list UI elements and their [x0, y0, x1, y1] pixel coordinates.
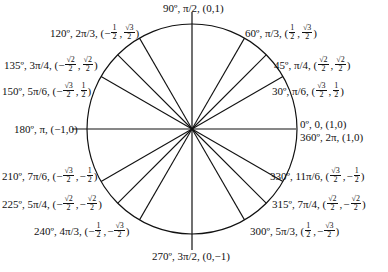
label-0: 0º, 0, (1,0) — [300, 118, 347, 130]
ray-60 — [192, 38, 245, 129]
y-coordinate: 12 — [333, 82, 339, 99]
ray-30 — [192, 77, 283, 130]
y-coordinate: √22 — [335, 56, 345, 73]
ray-135 — [118, 55, 192, 129]
ray-300 — [192, 129, 245, 220]
label-225: 225º, 5π/4, (−√22,−√22) — [2, 195, 102, 212]
y-coordinate: 12 — [87, 167, 93, 184]
x-coordinate: 12 — [111, 24, 117, 41]
ray-120 — [140, 38, 193, 129]
label-30: 30º, π/6, (√32,12) — [272, 82, 344, 99]
label-315: 315º, 7π/4, (√22,−√22) — [272, 195, 366, 212]
x-coordinate: √22 — [65, 56, 75, 73]
ray-45 — [192, 55, 266, 129]
x-coordinate: 12 — [95, 222, 101, 239]
x-coordinate: 12 — [305, 222, 311, 239]
label-360: 360º, 2π, (1,0) — [300, 131, 363, 143]
x-coordinate: √32 — [330, 167, 340, 184]
y-coordinate: √32 — [302, 24, 312, 41]
ray-225 — [118, 129, 192, 203]
ray-150 — [101, 77, 192, 130]
label-180: 180º, π, (−1,0) — [14, 123, 78, 135]
label-90: 90º, π/2, (0,1) — [163, 2, 224, 14]
x-coordinate: √32 — [316, 82, 326, 99]
x-coordinate: √22 — [318, 56, 328, 73]
x-coordinate: √22 — [63, 195, 73, 212]
y-coordinate: √22 — [87, 195, 97, 212]
y-coordinate: 12 — [354, 167, 360, 184]
y-coordinate: √32 — [324, 222, 334, 239]
ray-210 — [101, 129, 192, 182]
label-150: 150º, 5π/6, (−√32,12) — [2, 82, 91, 99]
label-120: 120º, 2π/3, (−12,√32) — [50, 24, 139, 41]
x-coordinate: √22 — [327, 195, 337, 212]
y-coordinate: √22 — [83, 56, 93, 73]
x-coordinate: √32 — [63, 82, 73, 99]
label-60: 60º, π/3, (12,√32) — [245, 24, 317, 41]
label-210: 210º, 7π/6, (−√32,−12) — [2, 167, 97, 184]
label-300: 300º, 5π/3, (12,−√32) — [250, 222, 339, 239]
x-coordinate: √32 — [63, 167, 73, 184]
label-240: 240º, 4π/3, (−12,−√32) — [34, 222, 129, 239]
ray-315 — [192, 129, 266, 203]
y-coordinate: √32 — [124, 24, 134, 41]
ray-240 — [140, 129, 193, 220]
label-270: 270º, 3π/2, (0,−1) — [152, 250, 230, 262]
y-coordinate: √22 — [351, 195, 361, 212]
label-330: 330º, 11π/6, (√32,−12) — [270, 167, 364, 184]
label-45: 45º, π/4, (√22,√22) — [274, 56, 350, 73]
label-135: 135º, 3π/4, (−√22,√22) — [4, 56, 98, 73]
y-coordinate: √32 — [114, 222, 124, 239]
x-coordinate: 12 — [289, 24, 295, 41]
y-coordinate: 12 — [81, 82, 87, 99]
